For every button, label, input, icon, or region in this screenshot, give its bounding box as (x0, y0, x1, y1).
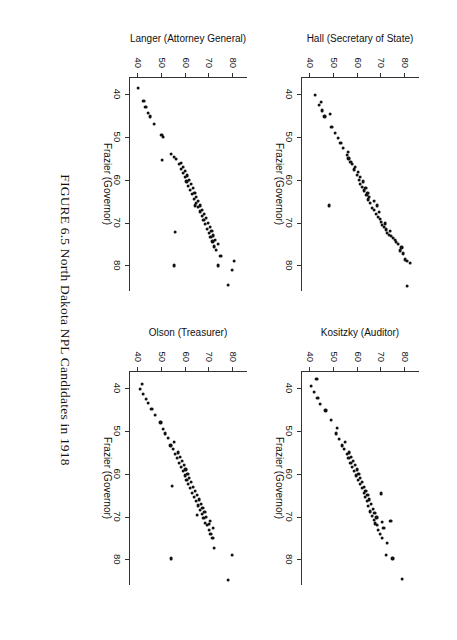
x-axis-label-hall: Frazier (Governor) (274, 77, 285, 291)
y-tick-label: 80 (227, 351, 238, 362)
y-tick-label: 40 (304, 57, 315, 68)
scatter-point (169, 152, 172, 155)
panel-olson-treasurer: 40506070804050607080 Frazier (Governor) … (85, 325, 251, 607)
plot-area-hall: 40506070804050607080 (301, 77, 419, 291)
scatter-point (368, 201, 371, 204)
scatter-point (184, 468, 187, 471)
scatter-point (159, 421, 162, 424)
scatter-point (185, 174, 188, 177)
scatter-point (194, 195, 197, 198)
scatter-point (138, 387, 141, 390)
scatter-point (366, 198, 369, 201)
y-tick-label: 70 (375, 57, 386, 68)
x-tick (297, 265, 301, 266)
panel-langer-attorney-general: 40506070804050607080 Frazier (Governor) … (85, 31, 251, 313)
scatter-point (216, 242, 219, 245)
scatter-point (144, 398, 147, 401)
y-axis-label-langer: Langer (Attorney General) (129, 31, 247, 45)
scatter-point (193, 489, 196, 492)
scatter-point (372, 518, 375, 521)
y-tick-label: 40 (132, 57, 143, 68)
scatter-point (379, 492, 382, 495)
scatter-point (191, 187, 194, 190)
scatter-point (209, 532, 212, 535)
scatter-point (214, 248, 217, 251)
scatter-point (199, 502, 202, 505)
scatter-point (174, 158, 177, 161)
scatter-point (370, 514, 373, 517)
x-tick-label: 80 (284, 554, 295, 565)
scatter-point (375, 204, 378, 207)
y-tick-label: 70 (203, 351, 214, 362)
scatter-point (179, 161, 182, 164)
figure-page: 40506070804050607080 Frazier (Governor) … (0, 0, 457, 640)
scatter-point (380, 536, 383, 539)
y-tick (208, 73, 209, 77)
scatter-point (383, 222, 386, 225)
scatter-point (230, 268, 233, 271)
x-tick-label: 40 (284, 383, 295, 394)
x-tick-label: 80 (284, 260, 295, 271)
scatter-point (195, 513, 198, 516)
scatter-point (136, 87, 139, 90)
x-tick-label: 40 (284, 89, 295, 100)
y-tick-label: 70 (203, 57, 214, 68)
scatter-point (317, 104, 320, 107)
scatter-point (185, 472, 188, 475)
y-tick-label: 40 (304, 351, 315, 362)
scatter-point (212, 547, 215, 550)
y-axis-label-kositzky: Kositzky (Auditor) (301, 325, 419, 339)
y-tick-label: 80 (227, 57, 238, 68)
scatter-point (403, 258, 406, 261)
scatter-point (368, 510, 371, 513)
y-tick-label: 80 (399, 57, 410, 68)
y-tick (309, 367, 310, 371)
plot-area-langer: 40506070804050607080 (129, 77, 247, 291)
scatter-point (408, 261, 411, 264)
y-axis-label-kositzky-text: Kositzky (Auditor) (320, 327, 398, 338)
scatter-point (204, 217, 207, 220)
x-tick-label: 50 (112, 426, 123, 437)
scatter-point (180, 459, 183, 462)
scatter-point (142, 99, 145, 102)
scatter-point (352, 168, 355, 171)
scatter-point (384, 553, 387, 556)
scatter-point (336, 136, 339, 139)
y-tick (184, 73, 185, 77)
y-axis-label-olson-text: Olson (Treasurer) (148, 327, 227, 338)
scatter-point (380, 520, 383, 523)
scatter-point (169, 557, 172, 560)
scatter-point (364, 187, 367, 190)
y-tick (184, 367, 185, 371)
x-tick (125, 517, 129, 518)
scatter-point (319, 100, 322, 103)
scatter-point (172, 440, 175, 443)
y-tick (309, 73, 310, 77)
plot-points-hall (301, 77, 419, 291)
plot-points-olson (129, 371, 247, 585)
scatter-point (371, 507, 374, 510)
scatter-point (207, 529, 210, 532)
x-axis-line-kositzky (301, 371, 302, 585)
x-tick-label: 70 (284, 511, 295, 522)
panel-hall-secretary-of-state: 40506070804050607080 Frazier (Governor) … (257, 31, 423, 313)
figure-caption: FIGURE 6.5 North Dakota NPL Candidates i… (57, 25, 73, 615)
scatter-point (353, 464, 356, 467)
scatter-point (401, 252, 404, 255)
scatter-point (210, 229, 213, 232)
scatter-point (379, 220, 382, 223)
y-axis-line-kositzky (301, 371, 419, 372)
scatter-point (172, 155, 175, 158)
scatter-point (366, 505, 369, 508)
x-tick-label: 60 (284, 468, 295, 479)
scatter-point (390, 557, 393, 560)
x-tick (125, 388, 129, 389)
scatter-point (346, 150, 349, 153)
x-tick-label: 70 (284, 217, 295, 228)
scatter-point (170, 484, 173, 487)
scatter-point (160, 158, 163, 161)
scatter-point (178, 455, 181, 458)
y-tick-label: 50 (328, 57, 339, 68)
y-tick (231, 73, 232, 77)
x-tick (297, 223, 301, 224)
